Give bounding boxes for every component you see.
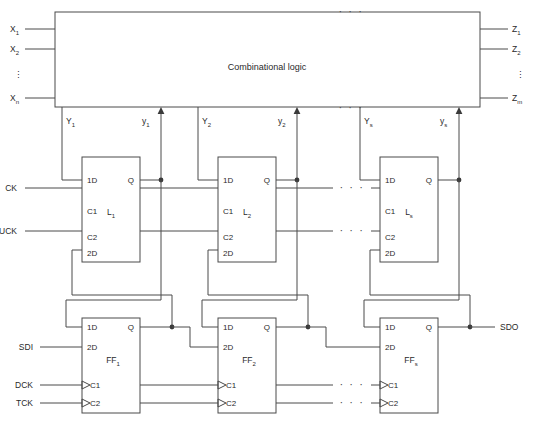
input-vertical-ellipsis: ⋮ xyxy=(14,69,23,79)
latch1-pin-C2: C2 xyxy=(87,233,98,242)
ffs-clock-triangle-C1 xyxy=(380,381,388,389)
control-label-DCK: DCK xyxy=(15,380,33,390)
input-label-x1: X1 xyxy=(10,24,20,36)
ff1-label: FF1 xyxy=(106,355,120,367)
latch1-label: L1 xyxy=(107,207,116,219)
ff1-clock-triangle-C2 xyxy=(82,399,90,407)
control-label-TCK: TCK xyxy=(16,398,33,408)
ff2-pin-C2: C2 xyxy=(226,399,237,408)
ff1-pin-2D: 2D xyxy=(87,343,97,352)
ff2-pin-Q: Q xyxy=(264,323,270,332)
latch1-pin-2D: 2D xyxy=(87,249,97,258)
ellipsis-CK-bus: · · · xyxy=(339,181,364,193)
output-label-z2: Z2 xyxy=(512,44,521,56)
arrowhead-y1 xyxy=(158,107,165,114)
wire-Ys-to-latchs-1D xyxy=(360,107,380,180)
latchs-pin-C1: C1 xyxy=(385,207,396,216)
ffs-pin-1D: 1D xyxy=(385,323,395,332)
arrowhead-y2 xyxy=(294,107,301,114)
wire-latch1-Q-to-ff1-1D xyxy=(66,300,161,327)
ffs-pin-C1: C1 xyxy=(388,381,399,390)
wire-ff1-Q-to-ff2-2D-scanchain xyxy=(172,327,218,347)
latchs-pin-Q: Q xyxy=(426,176,432,185)
latch2-label: L2 xyxy=(243,207,252,219)
signal-label-Y2: Y2 xyxy=(202,116,212,128)
ffs-label: FFs xyxy=(404,355,417,367)
ff2-label: FF2 xyxy=(242,355,256,367)
arrowhead-ys xyxy=(456,107,463,114)
wire-latch2-Q-to-ff2-1D xyxy=(202,300,297,327)
latch1-pin-Q: Q xyxy=(128,176,134,185)
ff1-clock-triangle-C1 xyxy=(82,381,90,389)
ellipsis-UCK-bus: · · · xyxy=(339,224,364,236)
control-label-UCK: UCK xyxy=(0,226,17,236)
input-label-x2: X2 xyxy=(10,44,20,56)
latch2-pin-1D: 1D xyxy=(223,176,233,185)
ff2-clock-triangle-C1 xyxy=(218,381,226,389)
ff1-pin-1D: 1D xyxy=(87,323,97,332)
wire-ff2-Q-to-ff3-2D-scanchain xyxy=(308,327,380,347)
wire-Y1-to-latch1-1D xyxy=(62,107,82,180)
ffs-pin-2D: 2D xyxy=(385,343,395,352)
ffs-pin-Q: Q xyxy=(426,323,432,332)
latchs-pin-2D: 2D xyxy=(385,249,395,258)
ffs-pin-C2: C2 xyxy=(388,399,399,408)
wire-Y2-to-latch2-1D xyxy=(198,107,218,180)
scan-path-logic-diagram: Combinational logic · · · · · · X1 X2 ⋮ … xyxy=(0,0,538,435)
latch1-pin-1D: 1D xyxy=(87,176,97,185)
latch2-pin-Q: Q xyxy=(264,176,270,185)
latchs-pin-1D: 1D xyxy=(385,176,395,185)
signal-label-ys: ys xyxy=(440,116,447,128)
output-label-z1: Z1 xyxy=(512,24,521,36)
combinational-logic-title: Combinational logic xyxy=(228,62,307,72)
wire-latchs-Q-to-ffs-1D xyxy=(364,300,459,327)
latchs-label: Ls xyxy=(405,207,413,219)
ff1-pin-C1: C1 xyxy=(90,381,101,390)
control-label-CK: CK xyxy=(5,183,17,193)
latchs-pin-C2: C2 xyxy=(385,233,396,242)
ff2-clock-triangle-C2 xyxy=(218,399,226,407)
output-label-zm: Zm xyxy=(512,93,522,105)
control-label-SDO: SDO xyxy=(500,322,519,332)
ff1-pin-C2: C2 xyxy=(90,399,101,408)
combinational-logic-block xyxy=(55,12,480,107)
ff2-pin-2D: 2D xyxy=(223,343,233,352)
input-label-xn: Xn xyxy=(10,93,19,105)
signal-label-y2: y2 xyxy=(278,116,286,128)
ffs-clock-triangle-C2 xyxy=(380,399,388,407)
comb-top-ellipsis: · · · xyxy=(338,5,363,17)
latch1-pin-C1: C1 xyxy=(87,207,98,216)
ff2-pin-C1: C1 xyxy=(226,381,237,390)
signal-label-Ys: Ys xyxy=(364,116,373,128)
ellipsis-TCK-bus: · · · xyxy=(339,396,364,408)
signal-label-y1: y1 xyxy=(142,116,150,128)
signal-label-Y1: Y1 xyxy=(66,116,76,128)
ff1-pin-Q: Q xyxy=(128,323,134,332)
ellipsis-DCK-bus: · · · xyxy=(339,378,364,390)
latch2-pin-C1: C1 xyxy=(223,207,234,216)
output-vertical-ellipsis: ⋮ xyxy=(516,69,525,79)
ff2-pin-1D: 1D xyxy=(223,323,233,332)
control-label-SDI: SDI xyxy=(19,342,33,352)
latch2-pin-C2: C2 xyxy=(223,233,234,242)
latch2-pin-2D: 2D xyxy=(223,249,233,258)
